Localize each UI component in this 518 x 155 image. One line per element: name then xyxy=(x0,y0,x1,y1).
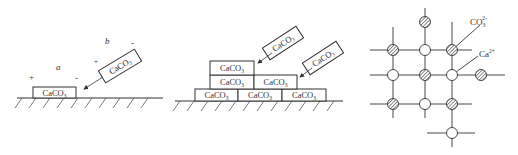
label-a: a xyxy=(56,62,61,72)
calcium-ion xyxy=(388,70,399,81)
panel-b-stacked-growth: CaCO3 CaCO3 CaCO3 CaCO3 CaCO3 CaCO3 CaCO… xyxy=(173,26,344,111)
carbonate-ion xyxy=(476,70,487,81)
stack-box: CaCO3 xyxy=(210,61,254,75)
falling-caco3-box: CaCO3 xyxy=(98,49,141,83)
carbonate-ion xyxy=(388,99,399,110)
calcium-label: Ca2+ xyxy=(479,48,495,59)
label-b: b xyxy=(105,36,110,46)
calcium-ion xyxy=(447,128,458,139)
ground-caco3-box: CaCO3 xyxy=(33,87,76,99)
carbonate-label: CO32- xyxy=(470,15,487,28)
stack-box: CaCO3 xyxy=(282,89,326,101)
carbonate-ion xyxy=(420,70,431,81)
svg-text:CaCO3: CaCO3 xyxy=(43,88,67,99)
stack-box: CaCO3 xyxy=(195,89,238,101)
svg-text:CaCO3: CaCO3 xyxy=(205,90,229,101)
calcium-ion xyxy=(447,70,458,81)
stack-box: CaCO3 xyxy=(210,75,254,89)
panel-c-ionic-lattice: CO32- Ca2+ xyxy=(370,8,505,147)
calcium-ion xyxy=(420,45,431,56)
ground-surface xyxy=(173,101,343,111)
stack-box: CaCO3 xyxy=(238,89,282,101)
carbonate-ion xyxy=(447,45,458,56)
svg-text:CaCO3: CaCO3 xyxy=(248,90,272,101)
plus-sign-left: + xyxy=(29,72,34,82)
incoming-caco3-box-2: CaCO3 xyxy=(302,41,343,75)
svg-text:CaCO3: CaCO3 xyxy=(292,90,316,101)
carbonate-ion xyxy=(447,99,458,110)
minus-sign-right: - xyxy=(131,38,134,48)
carbonate-ion xyxy=(420,17,431,28)
carbonate-ion xyxy=(388,45,399,56)
svg-text:CaCO3: CaCO3 xyxy=(264,77,288,88)
incoming-caco3-box-1: CaCO3 xyxy=(262,26,303,60)
plus-sign-right: + xyxy=(94,58,98,66)
deposition-arrow xyxy=(84,77,103,89)
svg-text:CaCO3: CaCO3 xyxy=(220,63,244,74)
ground-surface xyxy=(15,98,163,108)
stack-box: CaCO3 xyxy=(254,75,297,89)
svg-text:CaCO3: CaCO3 xyxy=(220,77,244,88)
minus-sign-left: - xyxy=(75,73,78,83)
panel-a-single-deposition: CaCO3 CaCO3 a b + - + - xyxy=(15,36,163,108)
calcium-ion xyxy=(420,99,431,110)
crystal-growth-diagram: CaCO3 CaCO3 a b + - + - xyxy=(0,0,518,155)
